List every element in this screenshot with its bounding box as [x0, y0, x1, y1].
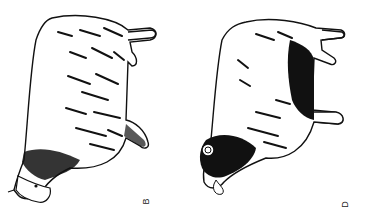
sheep-illustration-b: B	[0, 0, 185, 224]
sheep-b-drawing	[0, 0, 185, 224]
sheep-illustration-d: D	[186, 0, 371, 224]
figure-label-b: B	[142, 198, 151, 204]
sheep-d-drawing	[186, 0, 371, 224]
figure-label-d: D	[341, 201, 350, 208]
